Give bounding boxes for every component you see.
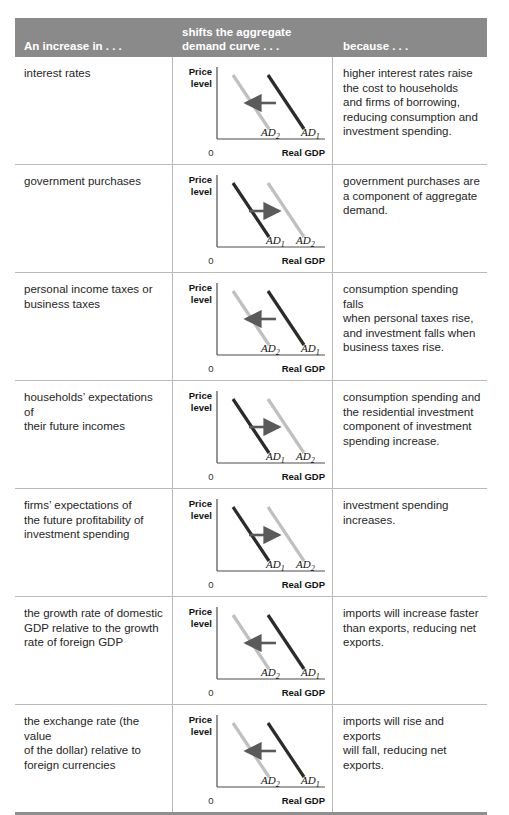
because-line: and investment falls when bbox=[343, 326, 481, 341]
factor-line: investment spending bbox=[24, 527, 164, 542]
origin-label: 0 bbox=[208, 363, 213, 374]
ad-chart-svg: Price level 0 Real GDP AD1 AD2 bbox=[173, 63, 332, 160]
header-cell-factor: An increase in . . . bbox=[15, 18, 172, 57]
y-axis-label-line1: Price bbox=[189, 606, 212, 617]
because-line: investment spending bbox=[343, 498, 481, 513]
x-axis-label: Real GDP bbox=[282, 795, 326, 806]
cell-chart: Price level 0 Real GDP AD1 AD2 bbox=[172, 489, 333, 596]
cell-because: consumption spending fallswhen personal … bbox=[333, 273, 487, 380]
cell-because: government purchases area component of a… bbox=[333, 165, 487, 272]
table-row: the growth rate of domesticGDP relative … bbox=[15, 597, 487, 705]
factor-line: GDP relative to the growth bbox=[24, 621, 164, 636]
x-axis-label: Real GDP bbox=[282, 579, 326, 590]
because-line: reducing consumption and bbox=[343, 110, 481, 125]
ad-chart-svg: Price level 0 Real GDP AD1 AD2 bbox=[173, 495, 332, 592]
cell-chart: Price level 0 Real GDP AD1 AD2 bbox=[172, 597, 333, 704]
because-line: investment spending. bbox=[343, 124, 481, 139]
cell-factor: the exchange rate (the valueof the dolla… bbox=[15, 705, 172, 812]
cell-factor: firms’ expectations ofthe future profita… bbox=[15, 489, 172, 596]
cell-because: higher interest rates raisethe cost to h… bbox=[333, 57, 487, 164]
ad-shift-table: An increase in . . . shifts the aggregat… bbox=[15, 18, 487, 815]
table-row: the exchange rate (the valueof the dolla… bbox=[15, 705, 487, 812]
cell-factor: interest rates bbox=[15, 57, 172, 164]
because-line: and firms of borrowing, bbox=[343, 95, 481, 110]
cell-because: consumption spending andthe residential … bbox=[333, 381, 487, 488]
header-shift-line-2: demand curve . . . bbox=[182, 40, 333, 54]
cell-factor: the growth rate of domesticGDP relative … bbox=[15, 597, 172, 704]
y-axis-label-line2: level bbox=[191, 186, 212, 197]
because-line: imports will increase faster bbox=[343, 606, 481, 621]
x-axis-label: Real GDP bbox=[282, 471, 326, 482]
y-axis-label-line2: level bbox=[191, 510, 212, 521]
table-header: An increase in . . . shifts the aggregat… bbox=[15, 18, 487, 57]
ad-chart-svg: Price level 0 Real GDP AD1 AD2 bbox=[173, 171, 332, 268]
ad-chart-svg: Price level 0 Real GDP AD1 AD2 bbox=[173, 387, 332, 484]
ad-shift-chart: Price level 0 Real GDP AD1 AD2 bbox=[173, 387, 332, 484]
table-row: government purchases Price level 0 Real … bbox=[15, 165, 487, 273]
header-cell-because: because . . . bbox=[333, 18, 487, 57]
header-because-line-1: because . . . bbox=[343, 40, 487, 54]
cell-because: imports will rise and exportswill fall, … bbox=[333, 705, 487, 812]
y-axis-label-line2: level bbox=[191, 78, 212, 89]
x-axis-label: Real GDP bbox=[282, 255, 326, 266]
cell-chart: Price level 0 Real GDP AD1 AD2 bbox=[172, 57, 333, 164]
factor-line: households’ expectations of bbox=[24, 390, 164, 419]
cell-chart: Price level 0 Real GDP AD1 AD2 bbox=[172, 165, 333, 272]
because-line: the cost to households bbox=[343, 81, 481, 96]
y-axis-label-line2: level bbox=[191, 294, 212, 305]
because-line: when personal taxes rise, bbox=[343, 311, 481, 326]
ad-shift-chart: Price level 0 Real GDP AD1 AD2 bbox=[173, 279, 332, 376]
because-line: component of investment bbox=[343, 419, 481, 434]
because-line: consumption spending falls bbox=[343, 282, 481, 311]
cell-factor: households’ expectations oftheir future … bbox=[15, 381, 172, 488]
origin-label: 0 bbox=[208, 255, 213, 266]
because-line: will fall, reducing net bbox=[343, 743, 481, 758]
origin-label: 0 bbox=[208, 471, 213, 482]
origin-label: 0 bbox=[208, 147, 213, 158]
header-shift-line-1: shifts the aggregate bbox=[182, 26, 333, 40]
factor-line: the exchange rate (the value bbox=[24, 714, 164, 743]
because-line: spending increase. bbox=[343, 434, 481, 449]
cell-chart: Price level 0 Real GDP AD1 AD2 bbox=[172, 273, 333, 380]
y-axis-label-line1: Price bbox=[189, 714, 212, 725]
y-axis-label-line1: Price bbox=[189, 390, 212, 401]
because-line: exports. bbox=[343, 635, 481, 650]
cell-factor: government purchases bbox=[15, 165, 172, 272]
cell-chart: Price level 0 Real GDP AD1 AD2 bbox=[172, 381, 333, 488]
ad-shift-chart: Price level 0 Real GDP AD1 AD2 bbox=[173, 711, 332, 808]
factor-line: interest rates bbox=[24, 66, 164, 81]
ad-shift-chart: Price level 0 Real GDP AD1 AD2 bbox=[173, 603, 332, 700]
factor-line: firms’ expectations of bbox=[24, 498, 164, 513]
cell-factor: personal income taxes orbusiness taxes bbox=[15, 273, 172, 380]
origin-label: 0 bbox=[208, 579, 213, 590]
y-axis-label-line1: Price bbox=[189, 498, 212, 509]
ad-shift-chart: Price level 0 Real GDP AD1 AD2 bbox=[173, 63, 332, 160]
x-axis-label: Real GDP bbox=[282, 363, 326, 374]
factor-line: foreign currencies bbox=[24, 758, 164, 773]
because-line: a component of aggregate bbox=[343, 189, 481, 204]
factor-line: the future profitability of bbox=[24, 513, 164, 528]
factor-line: personal income taxes or bbox=[24, 282, 164, 297]
because-line: business taxes rise. bbox=[343, 340, 481, 355]
ad-shift-chart: Price level 0 Real GDP AD1 AD2 bbox=[173, 171, 332, 268]
x-axis-label: Real GDP bbox=[282, 147, 326, 158]
because-line: demand. bbox=[343, 203, 481, 218]
y-axis-label-line1: Price bbox=[189, 282, 212, 293]
table-row: interest rates Price level 0 Real GDP AD… bbox=[15, 57, 487, 165]
because-line: exports. bbox=[343, 758, 481, 773]
header-factor-line-1: An increase in . . . bbox=[24, 40, 172, 54]
because-line: consumption spending and bbox=[343, 390, 481, 405]
because-line: increases. bbox=[343, 513, 481, 528]
cell-chart: Price level 0 Real GDP AD1 AD2 bbox=[172, 705, 333, 812]
y-axis-label-line2: level bbox=[191, 726, 212, 737]
because-line: the residential investment bbox=[343, 405, 481, 420]
cell-because: investment spendingincreases. bbox=[333, 489, 487, 596]
table-body: interest rates Price level 0 Real GDP AD… bbox=[15, 57, 487, 812]
ad-chart-svg: Price level 0 Real GDP AD1 AD2 bbox=[173, 603, 332, 700]
cell-because: imports will increase fasterthan exports… bbox=[333, 597, 487, 704]
y-axis-label-line1: Price bbox=[189, 174, 212, 185]
because-line: than exports, reducing net bbox=[343, 621, 481, 636]
ad-shift-chart: Price level 0 Real GDP AD1 AD2 bbox=[173, 495, 332, 592]
origin-label: 0 bbox=[208, 795, 213, 806]
